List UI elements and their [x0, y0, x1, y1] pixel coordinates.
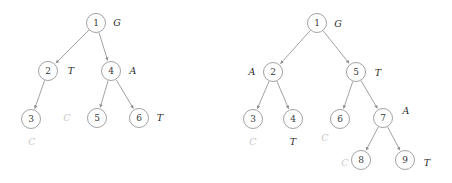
tree-node-4[interactable]: 4 [284, 110, 303, 129]
node-side-label-c: C [249, 136, 257, 147]
tree-node-3[interactable]: 3 [22, 110, 41, 129]
tree-node-7[interactable]: 7 [374, 109, 393, 128]
tree-edge [280, 30, 310, 63]
node-number-label: 2 [270, 67, 276, 77]
node-number-label: 8 [358, 155, 364, 165]
node-side-label-g: G [113, 17, 121, 28]
node-number-label: 4 [108, 66, 114, 76]
right-tree-figure: 125346789GATCTCACT [226, 0, 452, 183]
node-number-label: 3 [28, 114, 34, 124]
tree-edge [257, 81, 269, 109]
tree-node-2[interactable]: 2 [39, 62, 58, 81]
node-side-label-a: A [129, 65, 137, 76]
tree-node-1[interactable]: 1 [87, 14, 106, 33]
tree-node-9[interactable]: 9 [396, 151, 415, 170]
tree-node-5[interactable]: 5 [88, 109, 107, 128]
tree-node-6[interactable]: 6 [130, 109, 149, 128]
node-side-label-t: T [68, 65, 75, 76]
node-number-label: 6 [337, 114, 343, 124]
tree-edge [361, 81, 377, 109]
tree-edge [277, 81, 289, 109]
tree-edge [100, 81, 108, 108]
node-side-label-t: T [157, 112, 164, 123]
tree-edge [35, 80, 45, 108]
tree-edge [56, 30, 89, 63]
tree-edge [344, 81, 353, 108]
tree-node-8[interactable]: 8 [352, 151, 371, 170]
tree-edge [366, 127, 378, 150]
figure-canvas: 124356GTACCT 125346789GATCTCACT [0, 0, 452, 183]
node-side-label-t: T [290, 136, 297, 147]
node-side-label-c: C [341, 157, 349, 168]
tree-edge [323, 31, 349, 64]
left-tree-figure: 124356GTACCT [0, 0, 226, 183]
node-number-label: 5 [353, 67, 359, 77]
node-number-label: 3 [250, 114, 256, 124]
node-number-label: 1 [314, 18, 320, 28]
node-number-label: 5 [94, 113, 100, 123]
tree-node-2[interactable]: 2 [264, 63, 283, 82]
node-side-label-a: A [248, 66, 256, 77]
node-number-label: 2 [45, 66, 51, 76]
tree-node-6[interactable]: 6 [331, 110, 350, 129]
tree-edge [99, 33, 108, 61]
node-number-label: 1 [93, 18, 99, 28]
node-side-label-a: A [402, 105, 410, 116]
node-number-label: 9 [402, 155, 408, 165]
node-side-label-t: T [424, 157, 431, 168]
node-side-label-c: C [63, 112, 71, 123]
node-number-label: 4 [290, 114, 296, 124]
node-side-label-c: C [321, 132, 329, 143]
node-side-label-g: G [334, 18, 342, 29]
tree-node-1[interactable]: 1 [308, 14, 327, 33]
tree-edge [116, 80, 133, 109]
tree-edge [388, 127, 400, 150]
node-side-label-c: C [28, 136, 36, 147]
node-number-label: 7 [380, 113, 386, 123]
node-side-label-t: T [375, 67, 382, 78]
right-tree-svg: 125346789GATCTCACT [226, 0, 452, 183]
left-tree-svg: 124356GTACCT [0, 0, 226, 183]
tree-node-3[interactable]: 3 [244, 110, 263, 129]
tree-node-5[interactable]: 5 [347, 63, 366, 82]
tree-node-4[interactable]: 4 [102, 62, 121, 81]
node-number-label: 6 [136, 113, 142, 123]
